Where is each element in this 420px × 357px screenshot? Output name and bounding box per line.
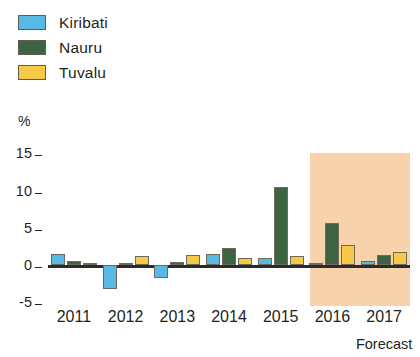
legend-item-kiribati: Kiribati bbox=[18, 10, 108, 35]
bar-nauru-2017 bbox=[377, 255, 391, 265]
bar-group bbox=[307, 140, 359, 306]
x-axis-label-2013: 2013 bbox=[159, 308, 195, 326]
y-axis-tick: -5 bbox=[19, 294, 42, 310]
bar-kiribati-2017 bbox=[361, 261, 375, 265]
x-axis-label-2015: 2015 bbox=[263, 308, 299, 326]
legend-label-nauru: Nauru bbox=[59, 39, 102, 57]
chart-container: Kiribati Nauru Tuvalu % 151050-5 2011201… bbox=[0, 0, 420, 357]
bar-tuvalu-2013 bbox=[186, 255, 200, 265]
bar-kiribati-2012 bbox=[103, 265, 117, 289]
x-axis-labels: 2011201220132014201520162017 bbox=[48, 308, 410, 332]
x-axis-label-2011: 2011 bbox=[57, 308, 91, 326]
bar-kiribati-2011 bbox=[51, 254, 65, 265]
y-axis-tick: 15 bbox=[16, 145, 42, 161]
bar-nauru-2012 bbox=[119, 263, 133, 266]
bar-group bbox=[48, 140, 100, 306]
legend-swatch-kiribati bbox=[18, 15, 46, 30]
legend-item-tuvalu: Tuvalu bbox=[18, 60, 108, 85]
bar-nauru-2016 bbox=[325, 223, 339, 265]
forecast-caption: Forecast bbox=[356, 336, 412, 352]
y-axis-unit-label: % bbox=[18, 113, 30, 129]
legend-swatch-nauru bbox=[18, 40, 46, 55]
y-axis-tick: 0 bbox=[24, 257, 42, 273]
bar-nauru-2014 bbox=[222, 248, 236, 265]
bar-kiribati-2015 bbox=[258, 258, 272, 265]
bar-nauru-2015 bbox=[274, 187, 288, 265]
bar-tuvalu-2011 bbox=[83, 263, 97, 266]
legend-label-kiribati: Kiribati bbox=[59, 14, 108, 32]
bar-group bbox=[203, 140, 255, 306]
bar-tuvalu-2014 bbox=[238, 258, 252, 265]
plot-area: 151050-5 bbox=[48, 140, 410, 306]
bar-tuvalu-2017 bbox=[393, 252, 407, 265]
bar-kiribati-2014 bbox=[206, 254, 220, 265]
x-axis-label-2012: 2012 bbox=[108, 308, 144, 326]
legend-swatch-tuvalu bbox=[18, 65, 46, 80]
y-axis-tick: 10 bbox=[16, 183, 42, 199]
x-axis-label-2016: 2016 bbox=[315, 308, 351, 326]
bar-group bbox=[151, 140, 203, 306]
x-axis-label-2014: 2014 bbox=[211, 308, 247, 326]
bar-group bbox=[358, 140, 410, 306]
legend-label-tuvalu: Tuvalu bbox=[59, 64, 106, 82]
chart-legend: Kiribati Nauru Tuvalu bbox=[18, 10, 108, 85]
bar-tuvalu-2016 bbox=[341, 245, 355, 265]
bar-tuvalu-2015 bbox=[290, 256, 304, 265]
legend-item-nauru: Nauru bbox=[18, 35, 108, 60]
bar-nauru-2013 bbox=[170, 262, 184, 265]
bar-group bbox=[255, 140, 307, 306]
bar-kiribati-2016 bbox=[309, 263, 323, 266]
y-axis-tick: 5 bbox=[24, 220, 42, 236]
bar-tuvalu-2012 bbox=[135, 256, 149, 265]
bar-group bbox=[100, 140, 152, 306]
x-axis-label-2017: 2017 bbox=[366, 308, 402, 326]
bar-kiribati-2013 bbox=[154, 265, 168, 278]
bar-nauru-2011 bbox=[67, 261, 81, 265]
